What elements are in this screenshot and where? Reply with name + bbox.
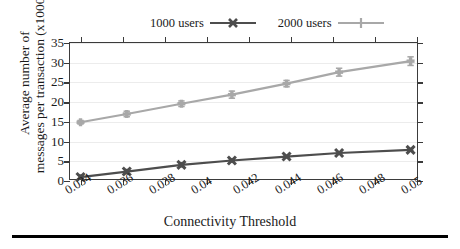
data-point-marker	[407, 57, 415, 65]
y-axis-title-line1: Average number of	[17, 0, 32, 178]
legend-item-1000-users: 1000 users	[150, 17, 256, 30]
x-tick-label: 0.034	[63, 171, 93, 197]
plot-area	[69, 42, 418, 180]
series-2000-users	[77, 57, 415, 126]
series-layer	[70, 43, 419, 181]
plus-icon	[355, 17, 367, 29]
data-point-marker	[335, 68, 343, 76]
legend-item-2000-users: 2000 users	[278, 17, 384, 30]
chart-legend: 1000 users 2000 users	[150, 12, 400, 34]
legend-label-2000-users: 2000 users	[278, 17, 332, 30]
legend-marker-1000-users	[210, 17, 256, 29]
x-cross-icon	[227, 17, 239, 29]
data-point-marker	[77, 118, 85, 126]
y-axis-title-line2: messages per transaction (x1000)	[32, 0, 47, 178]
x-axis-title: Connectivity Threshold	[0, 214, 460, 230]
bottom-rule	[12, 235, 448, 238]
y-axis-title: Average number of messages per transacti…	[17, 0, 47, 178]
chart-figure: 1000 users 2000 users 05101520253035	[0, 0, 460, 249]
legend-label-1000-users: 1000 users	[150, 17, 204, 30]
legend-marker-2000-users	[338, 17, 384, 29]
